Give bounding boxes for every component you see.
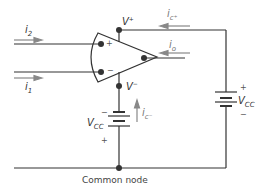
vcc-center-label: VCC: [87, 118, 104, 131]
circuit-schematic: [0, 0, 270, 193]
common-node-dot: [116, 165, 122, 171]
common-node-caption: Common node: [82, 176, 148, 185]
noninverting-sign: +: [106, 40, 113, 48]
battery-right: [215, 92, 237, 106]
battery-center-minus: −: [101, 109, 108, 117]
io-label: io: [169, 40, 176, 53]
inverting-input-dot: [98, 69, 104, 75]
ic-minus-arrow-icon: [135, 100, 140, 122]
output-node-dot: [141, 55, 147, 61]
vminus-node-dot: [116, 83, 122, 89]
vminus-label: V−: [126, 81, 138, 92]
i2-label: i2: [25, 25, 32, 38]
i1-label: i1: [25, 82, 32, 95]
vplus-node-dot: [116, 27, 122, 33]
circuit-diagram: i2 i1 V+ V− ic⁺ io ic⁻ VCC VCC + − + − −…: [0, 0, 270, 193]
inverting-sign: −: [107, 67, 114, 75]
ic-plus-arrow-icon: [160, 24, 190, 29]
ic-plus-label: ic⁺: [167, 9, 177, 22]
battery-center: [108, 112, 130, 126]
ic-minus-label: ic⁻: [142, 108, 152, 121]
vcc-right-label: VCC: [238, 96, 255, 109]
noninverting-input-dot: [98, 41, 104, 47]
i1-arrow-icon: [14, 76, 42, 81]
vplus-label: V+: [122, 16, 134, 27]
i2-arrow-icon: [14, 38, 42, 43]
battery-center-plus: +: [101, 137, 108, 145]
battery-right-plus: +: [240, 84, 247, 92]
battery-right-minus: −: [240, 111, 247, 119]
